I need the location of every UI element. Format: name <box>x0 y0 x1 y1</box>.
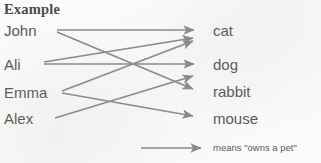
node-rabbit: rabbit <box>213 84 251 99</box>
node-mouse: mouse <box>213 111 258 126</box>
node-cat: cat <box>213 23 233 38</box>
diagram-canvas: Example John Ali Emma Alex cat dog rabbi… <box>0 0 321 163</box>
node-dog: dog <box>213 57 238 72</box>
legend-label: means "owns a pet" <box>213 143 297 153</box>
node-john: John <box>4 23 37 38</box>
node-alex: Alex <box>4 111 33 126</box>
edge-layer <box>0 0 321 163</box>
node-ali: Ali <box>4 57 21 72</box>
node-emma: Emma <box>4 85 47 100</box>
